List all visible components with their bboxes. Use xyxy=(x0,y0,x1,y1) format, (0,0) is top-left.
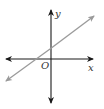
x-axis-label: x xyxy=(88,63,94,73)
coordinate-plane-diagram: y x O xyxy=(0,0,104,109)
graph-svg xyxy=(0,0,104,109)
graph-line xyxy=(50,16,94,49)
origin-label: O xyxy=(41,61,49,71)
y-axis-label: y xyxy=(55,9,61,19)
